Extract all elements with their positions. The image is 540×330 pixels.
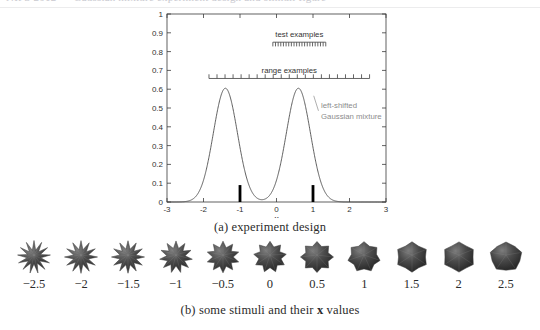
annotation-line-2: Gaussian mixture [321,112,382,121]
training-example-bar [239,185,242,202]
stimulus-value-label: 2 [456,277,462,292]
stimulus-value-label: −1 [169,277,182,292]
stimulus-shape-icon [439,238,479,276]
x-axis-tick-label: 2 [347,205,352,214]
stimulus-shape-icon [486,238,526,276]
annotation-line-1: left-shifted [321,101,357,110]
y-axis-tick-label: 0.4 [152,123,164,132]
stimulus-cell: −1.5 [108,238,148,292]
cropped-header-text-strip: NIPS 2012 — Gaussian mixture experiment … [0,0,540,7]
stimulus-cell: −0.5 [203,238,243,292]
stimulus-cell: 1 [344,238,384,292]
figure-caption-b-pre: (b) some stimuli and their [181,303,317,317]
stimuli-row: −2.5−2−1.5−1−0.500.511.522.5 [14,238,526,300]
stimulus-cell: 0 [250,238,290,292]
stimulus-cell: −2.5 [14,238,54,292]
y-axis-tick-label: 0.5 [152,104,164,113]
y-axis-tick-label: 0 [159,198,164,207]
y-axis-tick-label: 0.7 [152,66,164,75]
figure-caption-a: (a) experiment design [0,220,540,235]
x-axis-tick-label: 3 [384,205,389,214]
y-axis-tick-label: 0.2 [152,160,164,169]
stimulus-cell: 2.5 [486,238,526,292]
stimulus-value-label: 0 [267,277,273,292]
y-axis-tick-label: 0.9 [152,29,164,38]
stimulus-value-label: 0.5 [309,277,325,292]
figure-caption-b: (b) some stimuli and their x values [0,303,540,318]
stimulus-cell: 0.5 [297,238,337,292]
x-axis-title: x [274,214,279,218]
stimulus-shape-icon [156,238,196,276]
stimulus-value-label: −2 [75,277,88,292]
stimulus-cell: −1 [156,238,196,292]
y-axis-tick-label: 1 [159,10,164,19]
x-axis-tick-label: -1 [236,205,244,214]
x-axis-tick-label: 1 [311,205,316,214]
y-axis-tick-label: 0.1 [152,179,164,188]
figure-caption-b-post: values [323,303,359,317]
stimulus-value-label: 1 [361,277,367,292]
example-row-label: test examples [275,30,323,39]
x-axis-tick-label: -3 [163,205,171,214]
header-divider [0,7,540,8]
stimulus-value-label: 2.5 [498,277,514,292]
y-axis-tick-label: 0.6 [152,85,164,94]
figure-caption-a-text: (a) experiment design [214,220,326,234]
training-example-bar [312,185,315,202]
stimulus-cell: −2 [61,238,101,292]
stimulus-shape-icon [203,238,243,276]
stimulus-shape-icon [250,238,290,276]
stimuli-panel: −2.5−2−1.5−1−0.500.511.522.5 [0,238,540,300]
stimulus-shape-icon [297,238,337,276]
experiment-design-plot: -3-2-1012300.10.20.30.40.50.60.70.80.91x… [0,10,540,218]
stimulus-value-label: −0.5 [211,277,234,292]
example-row-label: range examples [262,66,318,75]
stimulus-cell: 1.5 [392,238,432,292]
stimulus-cell: 2 [439,238,479,292]
stimulus-shape-icon [108,238,148,276]
cropped-header-text: NIPS 2012 — Gaussian mixture experiment … [6,0,326,3]
y-axis-tick-label: 0.3 [152,142,164,151]
stimulus-value-label: −1.5 [117,277,140,292]
stimulus-shape-icon [14,238,54,276]
stimulus-shape-icon [392,238,432,276]
x-axis-tick-label: -2 [200,205,208,214]
y-axis-tick-label: 0.8 [152,48,164,57]
stimulus-value-label: −2.5 [23,277,46,292]
stimulus-shape-icon [61,238,101,276]
x-axis-tick-label: 0 [274,205,279,214]
stimulus-shape-icon [344,238,384,276]
gaussian-mixture-chart: -3-2-1012300.10.20.30.40.50.60.70.80.91x… [0,10,540,218]
example-row-test-examples: test examples [273,30,326,46]
stimulus-value-label: 1.5 [404,277,420,292]
